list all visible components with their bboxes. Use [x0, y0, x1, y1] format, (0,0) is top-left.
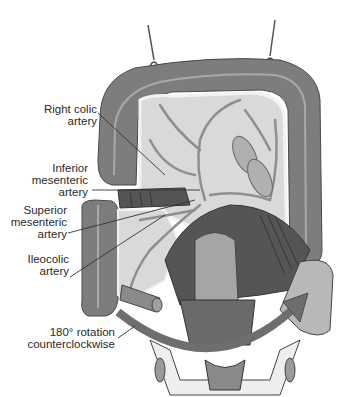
label-line: Superior — [11, 204, 67, 216]
retractor-right-icon — [266, 20, 275, 62]
label-line: mesenteric — [11, 216, 67, 228]
label-line: artery — [44, 115, 97, 127]
label-line: counterclockwise — [27, 338, 115, 350]
label-line: mesenteric — [32, 174, 88, 186]
label-line: artery — [27, 265, 69, 277]
label-rotation: 180° rotation counterclockwise — [27, 326, 115, 350]
label-line: Right colic — [44, 103, 97, 115]
colon-anatomy-figure: Right colic artery Inferior mesenteric a… — [0, 0, 345, 397]
label-line: artery — [11, 228, 67, 240]
label-superior-mesenteric-artery: Superior mesenteric artery — [11, 204, 67, 240]
label-ileocolic-artery: Ileocolic artery — [27, 253, 69, 277]
label-line: Inferior — [32, 162, 88, 174]
label-line: artery — [32, 186, 88, 198]
label-right-colic-artery: Right colic artery — [44, 103, 97, 127]
label-line: Ileocolic — [27, 253, 69, 265]
label-line: 180° rotation — [27, 326, 115, 338]
label-inferior-mesenteric-artery: Inferior mesenteric artery — [32, 162, 88, 198]
retractor-left-icon — [148, 25, 158, 66]
